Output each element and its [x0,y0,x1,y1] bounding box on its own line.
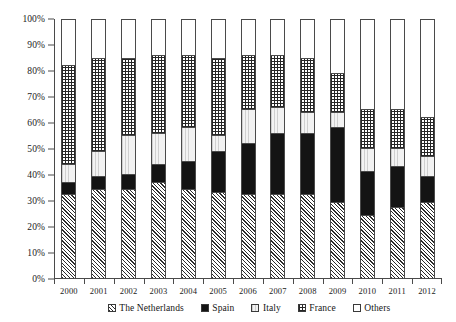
x-tick-mark [203,279,204,284]
bar-segment-spain [212,152,225,193]
bar-segment-others [301,20,314,59]
bar-segment-others [331,20,344,74]
y-tick-label: 70% [27,92,45,102]
bar-segment-italy [122,136,135,175]
y-axis: 0%10%20%30%40%50%60%70%80%90%100% [0,0,54,300]
legend-item[interactable]: Others [353,303,390,313]
bar-segment-spain [301,134,314,196]
y-tick-label: 30% [27,196,45,206]
bar-segment-spain [152,165,165,183]
x-tick-mark [293,279,294,284]
bar-segment-netherlands [331,203,344,278]
bar-segment-netherlands [271,195,284,278]
bar-column [360,19,375,279]
bar-segment-france [152,56,165,133]
bar-segment-spain [391,167,404,208]
x-tick-label: 2003 [150,286,168,296]
legend-label: The Netherlands [119,303,184,313]
bar-segment-netherlands [242,195,255,278]
bar-stack [330,19,345,279]
bar-segment-france [242,56,255,110]
bar-segment-italy [62,165,75,183]
bar-segment-italy [391,149,404,167]
bar-stack [390,19,405,279]
bar-segment-spain [331,128,344,203]
bar-segment-italy [242,110,255,144]
bars-layer [54,19,442,279]
bar-segment-netherlands [182,190,195,278]
bar-segment-netherlands [92,190,105,278]
bar-stack [121,19,136,279]
legend-item[interactable]: France [298,303,336,313]
x-tick-label: 2002 [120,286,138,296]
bar-segment-netherlands [62,195,75,278]
legend-label: Others [364,303,390,313]
bar-segment-others [271,20,284,56]
bar-segment-france [301,59,314,113]
bar-segment-others [182,20,195,56]
bar-segment-france [361,110,374,149]
bar-segment-netherlands [122,190,135,278]
bar-segment-netherlands [361,216,374,278]
bar-segment-france [92,59,105,152]
bar-segment-others [92,20,105,59]
x-tick-label: 2008 [299,286,317,296]
bar-segment-spain [62,183,75,196]
chart-legend: The NetherlandsSpainItalyFranceOthers [54,299,444,317]
legend-label: Italy [263,303,281,313]
bar-segment-others [62,20,75,66]
x-tick-label: 2010 [358,286,376,296]
bar-segment-spain [182,162,195,190]
bar-segment-france [62,66,75,164]
x-tick-mark [382,279,383,284]
y-tick-label: 60% [27,118,45,128]
y-tick-label: 20% [27,222,45,232]
x-tick-label: 2000 [60,286,78,296]
bar-segment-france [391,110,404,149]
bar-segment-others [122,20,135,59]
x-tick-label: 2005 [209,286,227,296]
x-tick-mark [233,279,234,284]
bar-column [61,19,76,279]
x-tick-mark [54,279,55,284]
bar-segment-italy [421,157,434,178]
bar-column [181,19,196,279]
x-tick-mark [144,279,145,284]
bar-stack [270,19,285,279]
spain-swatch-icon [201,304,209,312]
bar-segment-italy [271,108,284,134]
netherlands-swatch-icon [108,304,116,312]
bar-column [211,19,226,279]
y-tick-label: 100% [22,14,45,24]
bar-segment-others [242,20,255,56]
bar-segment-netherlands [421,203,434,278]
x-tick-label: 2009 [329,286,347,296]
bar-column [151,19,166,279]
bar-segment-others [391,20,404,110]
bar-column [420,19,435,279]
legend-item[interactable]: Italy [251,303,280,313]
bar-segment-italy [331,113,344,128]
others-swatch-icon [353,304,361,312]
y-tick-label: 80% [27,66,45,76]
legend-item[interactable]: The Netherlands [108,303,184,313]
x-tick-mark [84,279,85,284]
x-tick-mark [441,279,442,284]
bar-stack [300,19,315,279]
bar-segment-others [421,20,434,118]
x-tick-mark [323,279,324,284]
bar-segment-italy [152,134,165,165]
bar-segment-france [182,56,195,128]
bar-segment-italy [182,128,195,162]
italy-swatch-icon [251,304,259,312]
bar-column [300,19,315,279]
y-tick-label: 50% [27,144,45,154]
bar-column [330,19,345,279]
bar-stack [420,19,435,279]
bar-segment-italy [212,136,225,151]
bar-segment-spain [361,172,374,216]
x-tick-label: 2004 [179,286,197,296]
x-tick-label: 2011 [388,286,406,296]
legend-item[interactable]: Spain [201,303,235,313]
bar-segment-italy [92,152,105,178]
